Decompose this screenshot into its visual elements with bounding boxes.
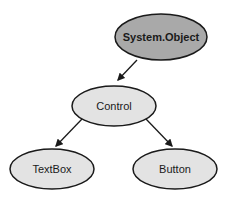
node-label-system-object: System.Object (123, 31, 200, 43)
node-textbox: TextBox (10, 149, 94, 189)
node-label-textbox: TextBox (32, 163, 72, 175)
node-system-object: System.Object (115, 14, 207, 60)
node-control: Control (72, 86, 156, 126)
edge-object-to-control (118, 60, 137, 80)
edge-control-to-textbox (56, 119, 82, 146)
node-button: Button (133, 149, 217, 189)
edge-control-to-button (146, 119, 172, 146)
node-label-button: Button (159, 163, 191, 175)
inheritance-diagram: System.Object Control TextBox Button (0, 0, 236, 200)
node-label-control: Control (96, 100, 131, 112)
